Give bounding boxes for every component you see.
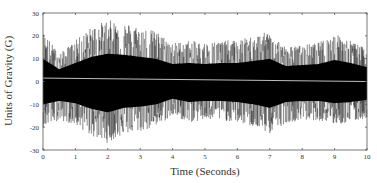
x-tick-label: 3: [138, 153, 142, 161]
y-tick-label: -10: [30, 101, 40, 109]
x-tick-label: 1: [74, 153, 78, 161]
y-tick-label: 10: [32, 55, 40, 63]
y-tick-label: 20: [32, 32, 40, 40]
x-tick-label: 5: [203, 153, 207, 161]
acceleration-chart: 012345678910 3020100-10-20-30: [0, 0, 377, 183]
x-tick-label: 4: [171, 153, 175, 161]
y-tick-label: 30: [32, 10, 40, 18]
x-tick-label: 10: [364, 153, 372, 161]
y-tick-label: -30: [30, 147, 40, 155]
x-axis-label: Time (Seconds): [170, 165, 240, 177]
signal-trace: [43, 20, 367, 142]
x-tick-label: 9: [333, 153, 337, 161]
x-tick-label: 2: [106, 153, 110, 161]
x-tick-label: 0: [41, 153, 45, 161]
y-tick-label: 0: [36, 78, 40, 86]
y-tick-label: -20: [30, 124, 40, 132]
x-tick-label: 6: [236, 153, 240, 161]
y-axis-label: Units of Gravity (G): [2, 36, 14, 126]
x-tick-label: 7: [268, 153, 272, 161]
x-tick-label: 8: [300, 153, 304, 161]
